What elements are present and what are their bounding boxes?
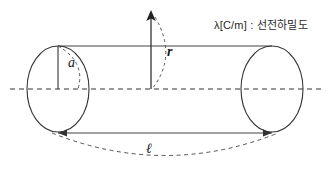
inner-radius-label: a: [68, 56, 75, 70]
length-arc: [52, 133, 278, 156]
linear-charge-density-annotation: λ[C/m] : 선전하밀도: [214, 20, 308, 31]
length-label: ℓ: [146, 142, 152, 156]
outer-radius-label: r: [167, 45, 172, 59]
cylinder-diagram: a r ℓ λ[C/m] : 선전하밀도: [0, 0, 334, 171]
outer-radius-arc: [152, 17, 166, 89]
